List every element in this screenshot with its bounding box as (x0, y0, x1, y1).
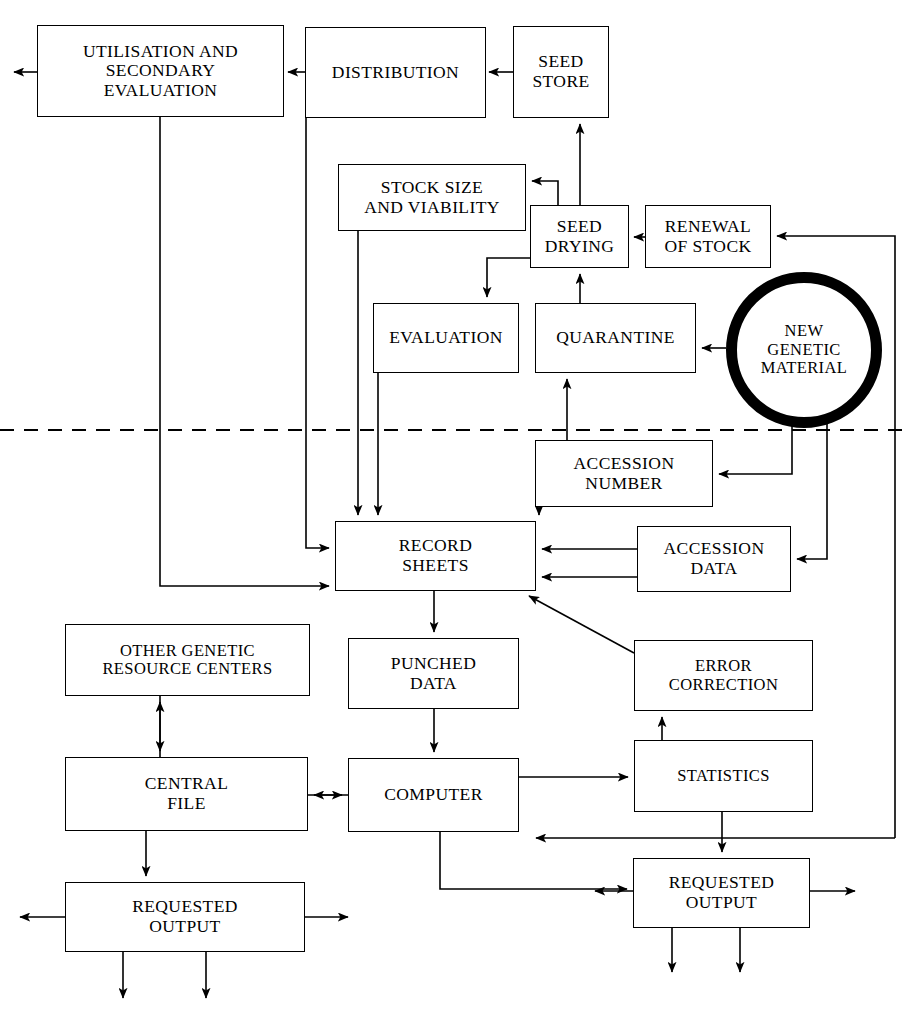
edge-new-material-to-accession-number (719, 426, 792, 474)
node-error-correction[interactable]: ERRORCORRECTION (634, 640, 813, 711)
flowchart-diagram: UTILISATION ANDSECONDARYEVALUATIONDISTRI… (0, 0, 911, 1014)
node-label-distribution: DISTRIBUTION (328, 63, 463, 83)
node-label-error-correction: ERRORCORRECTION (665, 657, 782, 694)
node-label-seed-drying: SEEDDRYING (541, 217, 619, 256)
node-label-requested-output-left: REQUESTEDOUTPUT (128, 897, 242, 936)
node-label-central-file: CENTRALFILE (141, 774, 233, 813)
edge-distribution-to-record-sheets (306, 118, 329, 548)
node-evaluation[interactable]: EVALUATION (373, 303, 519, 373)
node-label-requested-output-right: REQUESTEDOUTPUT (665, 873, 779, 912)
node-seed-drying[interactable]: SEEDDRYING (530, 205, 629, 268)
node-utilisation[interactable]: UTILISATION ANDSECONDARYEVALUATION (37, 25, 284, 117)
edge-new-material-to-accession-data (797, 424, 827, 559)
node-requested-output-left[interactable]: REQUESTEDOUTPUT (65, 882, 305, 952)
node-label-accession-number: ACCESSIONNUMBER (570, 454, 679, 493)
node-stock-size[interactable]: STOCK SIZEAND VIABILITY (338, 164, 526, 231)
node-label-seed-store: SEEDSTORE (528, 52, 593, 91)
node-statistics[interactable]: STATISTICS (634, 740, 813, 812)
node-distribution[interactable]: DISTRIBUTION (305, 27, 486, 118)
node-accession-number[interactable]: ACCESSIONNUMBER (535, 440, 713, 507)
edge-utilisation-to-record-sheets (160, 117, 329, 586)
node-label-quarantine: QUARANTINE (552, 328, 679, 348)
node-punched-data[interactable]: PUNCHEDDATA (348, 638, 519, 709)
node-requested-output-right[interactable]: REQUESTEDOUTPUT (633, 858, 810, 928)
node-record-sheets[interactable]: RECORDSHEETS (335, 521, 536, 591)
node-central-file[interactable]: CENTRALFILE (65, 757, 308, 831)
edge-seed-drying-to-evaluation (487, 258, 530, 297)
edge-seed-drying-to-stock-size (532, 181, 558, 205)
node-seed-store[interactable]: SEEDSTORE (513, 26, 609, 118)
node-label-new-genetic-material: NEWGENETICMATERIAL (761, 322, 848, 377)
node-label-stock-size: STOCK SIZEAND VIABILITY (360, 178, 504, 217)
node-computer[interactable]: COMPUTER (348, 758, 519, 832)
node-new-genetic-material[interactable]: NEWGENETICMATERIAL (726, 272, 882, 428)
node-accession-data[interactable]: ACCESSIONDATA (637, 526, 791, 592)
node-label-computer: COMPUTER (380, 785, 487, 805)
node-label-punched-data: PUNCHEDDATA (387, 654, 480, 693)
node-label-renewal-of-stock: RENEWALOF STOCK (661, 217, 756, 256)
edge-error-correction-to-record-sheets (529, 596, 634, 653)
node-label-utilisation: UTILISATION ANDSECONDARYEVALUATION (79, 42, 242, 101)
node-renewal-of-stock[interactable]: RENEWALOF STOCK (645, 205, 771, 268)
node-label-record-sheets: RECORDSHEETS (395, 536, 476, 575)
node-label-evaluation: EVALUATION (385, 328, 507, 348)
node-label-statistics: STATISTICS (673, 767, 774, 785)
edge-computer-to-requested-output-right (440, 832, 627, 889)
node-label-accession-data: ACCESSIONDATA (660, 539, 769, 578)
node-other-genetic-resource-centers[interactable]: OTHER GENETICRESOURCE CENTERS (65, 624, 310, 696)
node-quarantine[interactable]: QUARANTINE (535, 303, 696, 373)
node-label-other-genetic-resource-centers: OTHER GENETICRESOURCE CENTERS (98, 642, 276, 679)
